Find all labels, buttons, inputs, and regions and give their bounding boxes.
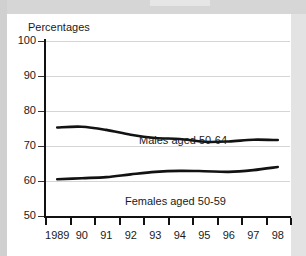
- top-gray-band: [0, 0, 306, 14]
- x-axis-tick: [217, 218, 219, 225]
- x-axis-tick: [119, 218, 121, 225]
- y-axis-tick: [38, 216, 44, 217]
- y-axis-tick: [38, 41, 44, 42]
- series-label-females: Females aged 50-59: [125, 195, 226, 207]
- y-axis-tick-label: 50: [10, 209, 36, 221]
- x-axis-tick-label: 1989: [45, 229, 69, 241]
- y-axis-tick: [38, 181, 44, 182]
- series-label-males: Males aged 50-64: [139, 134, 227, 146]
- x-axis-tick: [94, 218, 96, 225]
- x-axis-tick: [45, 218, 47, 225]
- series-lines: [45, 41, 290, 216]
- top-band-highlight: [150, 0, 210, 6]
- x-axis-tick-label: 93: [149, 229, 161, 241]
- y-axis-tick: [38, 76, 44, 77]
- right-gray-band: [291, 14, 306, 256]
- x-axis-tick: [290, 218, 292, 225]
- x-axis-tick-label: 90: [76, 229, 88, 241]
- y-axis-tick: [38, 111, 44, 112]
- y-axis-tick-label: 90: [10, 69, 36, 81]
- x-axis-tick-label: 92: [125, 229, 137, 241]
- x-axis-tick-label: 97: [247, 229, 259, 241]
- y-axis-tick-label: 80: [10, 104, 36, 116]
- x-axis-tick-label: 98: [272, 229, 284, 241]
- y-axis-tick: [38, 146, 44, 147]
- x-axis-tick: [143, 218, 145, 225]
- x-axis-tick: [266, 218, 268, 225]
- y-axis-labels: 5060708090100: [7, 14, 36, 256]
- x-axis-tick: [192, 218, 194, 225]
- x-axis-tick: [70, 218, 72, 225]
- plot-area: [45, 41, 290, 216]
- y-axis-tick-label: 60: [10, 174, 36, 186]
- y-axis-tick-label: 100: [10, 34, 36, 46]
- x-axis-tick-label: 91: [100, 229, 112, 241]
- x-axis-tick: [241, 218, 243, 225]
- chart-axis-title: Percentages: [28, 21, 90, 33]
- series-line-females: [57, 167, 278, 179]
- x-axis-tick: [168, 218, 170, 225]
- x-axis-tick-label: 94: [174, 229, 186, 241]
- chart-card: Percentages 5060708090100 19899091929394…: [7, 14, 291, 256]
- x-axis-tick-label: 95: [198, 229, 210, 241]
- screenshot-root: Percentages 5060708090100 19899091929394…: [0, 0, 306, 256]
- line-chart: Percentages 5060708090100 19899091929394…: [7, 14, 291, 256]
- left-gray-band: [0, 0, 7, 256]
- y-axis-tick-label: 70: [10, 139, 36, 151]
- y-axis-line: [44, 39, 46, 218]
- x-axis-tick-label: 96: [223, 229, 235, 241]
